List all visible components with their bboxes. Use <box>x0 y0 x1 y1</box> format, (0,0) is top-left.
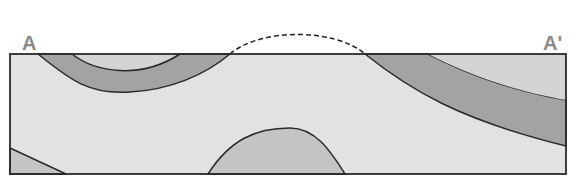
cross-section-diagram <box>0 0 578 178</box>
eroded-fold-dashed-arc <box>230 35 365 55</box>
